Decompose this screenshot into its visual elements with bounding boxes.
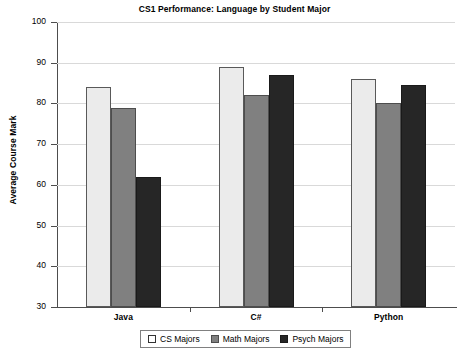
bar-java-cs-majors (86, 87, 111, 307)
y-tick-label: 50 (0, 221, 46, 230)
y-tick-label: 30 (0, 302, 46, 311)
bar-c-math-majors (244, 95, 269, 307)
bar-java-psych-majors (136, 177, 161, 307)
y-axis-title: Average Course Mark (8, 95, 20, 225)
legend-label-psych-majors: Psych Majors (292, 335, 343, 344)
y-tick-label: 100 (0, 17, 46, 26)
legend-swatch-icon-math-majors (211, 335, 219, 343)
bar-python-math-majors (376, 103, 401, 307)
legend-item-2: Psych Majors (280, 335, 343, 344)
bar-python-cs-majors (351, 79, 376, 307)
x-tick-mark (322, 307, 323, 312)
legend-label-math-majors: Math Majors (223, 335, 270, 344)
x-axis-line (57, 307, 457, 308)
legend-swatch-icon-cs-majors (148, 335, 156, 343)
legend-item-1: Math Majors (211, 335, 270, 344)
legend-label-cs-majors: CS Majors (160, 335, 200, 344)
y-tick-label: 40 (0, 261, 46, 270)
y-tick-label: 90 (0, 58, 46, 67)
y-tick-label: 80 (0, 98, 46, 107)
x-tick-label-java: Java (57, 312, 190, 322)
bar-c-psych-majors (269, 75, 294, 307)
y-tick-mark (51, 307, 57, 308)
y-tick-label: 70 (0, 139, 46, 148)
bars-container (57, 22, 455, 307)
bar-chart: CS1 Performance: Language by Student Maj… (0, 0, 469, 356)
x-tick-label-c: C# (190, 312, 323, 322)
legend-item-0: CS Majors (148, 335, 200, 344)
legend: CS Majors Math Majors Psych Majors (140, 330, 351, 348)
bar-java-math-majors (111, 108, 136, 308)
x-tick-label-python: Python (322, 312, 455, 322)
chart-title: CS1 Performance: Language by Student Maj… (0, 4, 469, 14)
bar-c-cs-majors (219, 67, 244, 307)
y-tick-label: 60 (0, 180, 46, 189)
bar-python-psych-majors (401, 85, 426, 307)
legend-swatch-icon-psych-majors (280, 335, 288, 343)
x-tick-mark (190, 307, 191, 312)
